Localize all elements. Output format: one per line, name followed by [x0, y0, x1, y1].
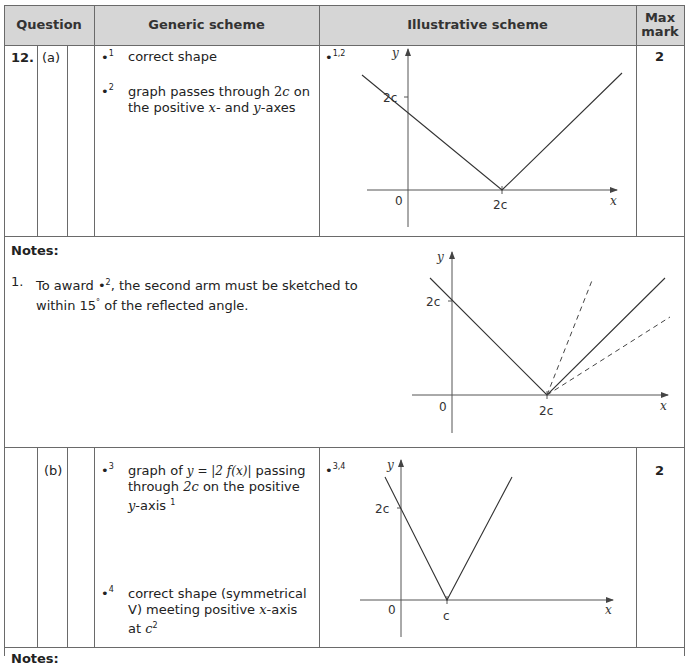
dashed-limit-steep: [547, 278, 593, 395]
header-max-mark-line1: Max: [645, 11, 675, 25]
header-question: Question: [4, 5, 94, 45]
criterion-bullet-3: •3: [101, 463, 114, 478]
x-intercept-label: c: [443, 609, 450, 623]
col-divider: [37, 447, 38, 647]
graph-line: [430, 278, 665, 395]
part-label-a: (a): [42, 50, 60, 65]
notes-title-a: Notes:: [11, 243, 59, 258]
col-divider: [37, 45, 38, 236]
origin-label: 0: [388, 603, 396, 617]
y-intercept-label: 2c: [426, 295, 440, 309]
header-illustrative-scheme: Illustrative scheme: [319, 5, 636, 45]
x-axis-label: x: [605, 603, 612, 617]
y-intercept-label: 2c: [375, 502, 389, 516]
graph-line: [385, 477, 512, 600]
criterion-bullet-2: •2: [101, 84, 114, 99]
max-mark-a: 2: [655, 49, 664, 64]
x-axis-label: x: [660, 399, 667, 413]
criterion-text-2: graph passes through 2c on the positive …: [128, 84, 318, 116]
x-intercept-label: 2c: [493, 198, 507, 212]
criterion-bullet-1: •1: [101, 50, 114, 65]
col-divider: [67, 45, 68, 236]
col-divider: [319, 447, 320, 647]
illustrative-bullet-b: •3,4: [325, 463, 345, 478]
table-border-left: [4, 5, 5, 656]
y-intercept-label: 2c: [383, 91, 397, 105]
header-max-mark: Max mark: [636, 5, 684, 45]
header-generic-scheme: Generic scheme: [94, 5, 319, 45]
criterion-bullet-4: •4: [101, 586, 114, 601]
col-divider: [636, 447, 637, 647]
col-divider: [67, 447, 68, 647]
col-divider: [94, 447, 95, 647]
question-number: 12.: [11, 50, 34, 65]
x-axis-label: x: [610, 194, 617, 208]
y-axis-label: y: [436, 250, 444, 264]
criterion-text-1: correct shape: [128, 49, 217, 65]
x-intercept-label: 2c: [539, 404, 553, 418]
header-max-mark-line2: mark: [641, 25, 678, 39]
origin-label: 0: [439, 400, 447, 414]
y-axis-label: y: [391, 46, 399, 60]
illustrative-bullet-a: •1,2: [325, 50, 345, 65]
graph-line: [362, 73, 622, 190]
notes-a-divider: [4, 447, 684, 448]
row-b-divider: [4, 647, 684, 648]
graph-part-a: y x 0 2c 2c: [360, 45, 630, 235]
part-label-b: (b): [44, 463, 62, 478]
note-number-1: 1.: [11, 274, 23, 289]
criterion-text-3: graph of y = |2 f(x)| passing through 2c…: [128, 463, 318, 514]
y-axis-label: y: [386, 458, 394, 472]
origin-label: 0: [395, 194, 403, 208]
note-text-1: To award •2, the second arm must be sket…: [36, 274, 358, 315]
graph-notes-a: y x 0 2c 2c: [400, 240, 685, 440]
criterion-text-4: correct shape (symmetrical V) meeting po…: [128, 586, 318, 637]
graph-part-b: y x 0 2c c: [355, 455, 625, 645]
row-a-divider: [4, 236, 684, 237]
notes-title-b: Notes:: [11, 651, 59, 666]
max-mark-b: 2: [655, 463, 664, 478]
dashed-limit-shallow: [547, 317, 670, 395]
